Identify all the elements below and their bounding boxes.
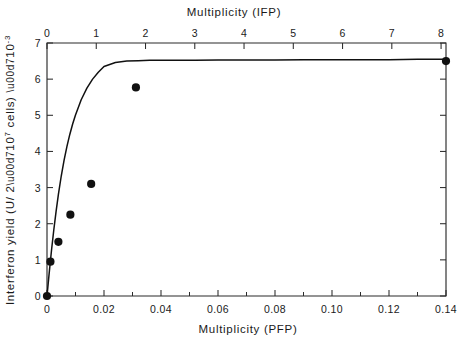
left-tick-label: 1 [35, 254, 41, 266]
fit-curve-path [47, 59, 446, 296]
top-tick-label: 3 [192, 27, 198, 39]
bottom-tick-label: 0.10 [321, 303, 343, 315]
bottom-tick-label: 0.08 [264, 303, 286, 315]
bottom-tick-label: 0.02 [93, 303, 115, 315]
data-point [442, 57, 450, 65]
data-point [66, 211, 74, 219]
left-tick-label: 2 [35, 218, 41, 230]
top-tick-label: 5 [290, 27, 296, 39]
interferon-yield-chart: Multiplicity (IFP) Multiplicity (PFP) In… [0, 0, 469, 339]
top-tick-label: 6 [339, 27, 345, 39]
top-axis-title: Multiplicity (IFP) [187, 6, 281, 18]
bottom-tick-label: 0.12 [378, 303, 400, 315]
left-tick-label: 7 [35, 37, 41, 49]
bottom-axis-title: Multiplicity (PFP) [199, 323, 298, 335]
left-tick-label: 5 [35, 109, 41, 121]
svg-text:Interferon yield (U/ 2\u00d71: Interferon yield (U/ 2\u00d7107 cells) \… [3, 35, 16, 305]
data-point [43, 292, 51, 300]
top-tick-label: 7 [389, 27, 395, 39]
top-tick-label: 0 [44, 27, 50, 39]
left-tick-label: 4 [35, 145, 41, 157]
left-tick-label: 6 [35, 73, 41, 85]
data-point [54, 238, 62, 246]
data-point [46, 258, 54, 266]
left-axis-title: Interferon yield (U/ 2\u00d7107 cells) \… [3, 35, 16, 305]
top-tick-label: 1 [93, 27, 99, 39]
top-tick-label: 8 [438, 27, 444, 39]
bottom-tick-label: 0.14 [435, 303, 457, 315]
data-point [132, 83, 140, 91]
axes-layer: 00.020.040.060.080.100.120.1401234567801… [35, 27, 457, 315]
top-tick-label: 2 [142, 27, 148, 39]
data-point [87, 180, 95, 188]
bottom-tick-label: 0.04 [150, 303, 172, 315]
bottom-tick-label: 0.06 [207, 303, 229, 315]
figure-container: Multiplicity (IFP) Multiplicity (PFP) In… [0, 0, 469, 339]
bottom-tick-label: 0 [44, 303, 50, 315]
plot-frame [47, 43, 446, 296]
top-tick-label: 4 [241, 27, 247, 39]
data-point-group [43, 57, 450, 300]
left-tick-label: 0 [35, 290, 41, 302]
left-tick-label: 3 [35, 182, 41, 194]
